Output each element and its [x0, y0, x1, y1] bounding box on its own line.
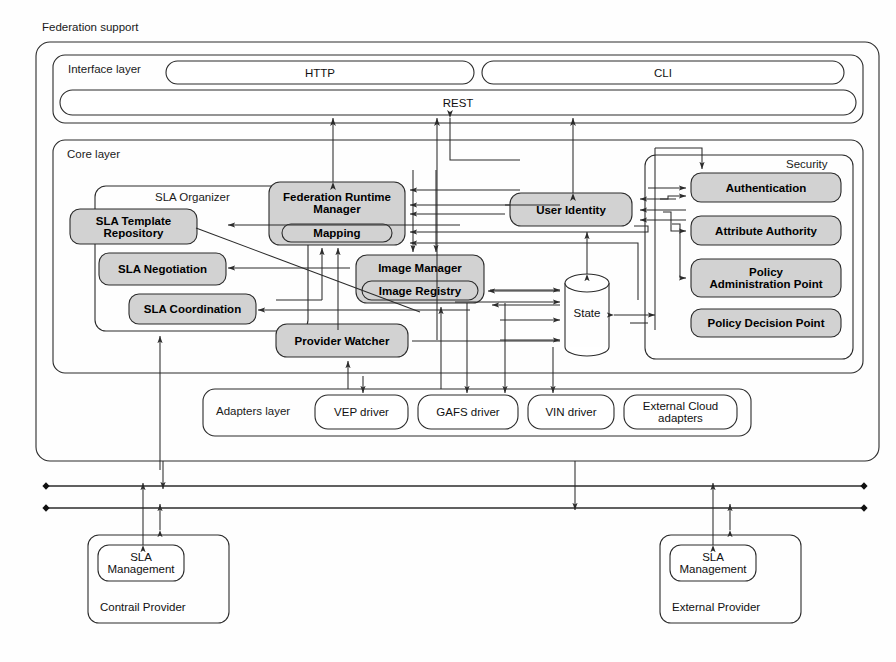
- node-image-manager[interactable]: Image Manager: [356, 257, 484, 279]
- node-policy-decision-point[interactable]: Policy Decision Point: [691, 309, 841, 337]
- node-attribute-authority[interactable]: Attribute Authority: [691, 216, 841, 245]
- label-external-provider: External Provider: [672, 601, 760, 614]
- node-contrail-sla-management[interactable]: SLA Management: [98, 545, 184, 581]
- node-mapping[interactable]: Mapping: [282, 224, 392, 242]
- interface-item-http[interactable]: HTTP: [166, 61, 474, 84]
- sla-organizer-label: SLA Organizer: [155, 191, 230, 204]
- node-vin-driver[interactable]: VIN driver: [528, 395, 614, 429]
- node-sla-template-repository[interactable]: SLA Template Repository: [70, 209, 197, 244]
- node-authentication[interactable]: Authentication: [691, 173, 841, 202]
- interface-layer-label: Interface layer: [68, 63, 141, 76]
- node-external-cloud-adapters[interactable]: External Cloud adapters: [624, 395, 737, 429]
- node-state-datastore[interactable]: State: [565, 303, 609, 323]
- node-image-registry[interactable]: Image Registry: [362, 281, 478, 300]
- adapters-layer-label: Adapters layer: [216, 405, 290, 418]
- interface-item-cli[interactable]: CLI: [482, 61, 844, 84]
- node-vep-driver[interactable]: VEP driver: [315, 395, 408, 429]
- interface-item-rest[interactable]: REST: [60, 90, 856, 115]
- label-contrail-provider: Contrail Provider: [100, 601, 186, 614]
- node-policy-administration-point[interactable]: Policy Administration Point: [691, 259, 841, 297]
- node-sla-coordination[interactable]: SLA Coordination: [129, 294, 256, 324]
- architecture-diagram: Federation support Interface layer HTTP …: [0, 0, 896, 662]
- security-group-label: Security: [786, 158, 828, 171]
- node-sla-negotiation[interactable]: SLA Negotiation: [99, 253, 226, 285]
- node-external-sla-management[interactable]: SLA Management: [670, 545, 756, 581]
- node-provider-watcher[interactable]: Provider Watcher: [276, 324, 408, 357]
- diagram-title: Federation support: [42, 21, 139, 34]
- node-gafs-driver[interactable]: GAFS driver: [418, 395, 518, 429]
- node-federation-runtime-manager[interactable]: Federation Runtime Manager: [269, 184, 405, 222]
- core-layer-label: Core layer: [67, 148, 120, 161]
- node-user-identity[interactable]: User Identity: [510, 193, 632, 226]
